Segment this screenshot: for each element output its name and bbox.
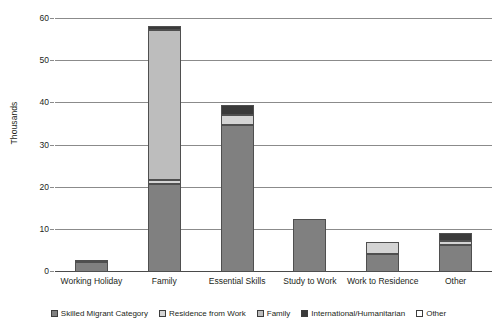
y-tick-label-0: 0 bbox=[44, 266, 49, 276]
y-tick-label-40: 40 bbox=[40, 97, 49, 107]
bar-segment[interactable] bbox=[148, 26, 181, 30]
x-axis-label-essential-skills: Essential Skills bbox=[201, 276, 274, 286]
legend-label: Residence from Work bbox=[169, 309, 246, 318]
x-axis-label-other: Other bbox=[419, 276, 492, 286]
legend-label: Skilled Migrant Category bbox=[61, 309, 148, 318]
y-tick-mark-50 bbox=[50, 60, 54, 61]
y-tick-mark-0 bbox=[50, 271, 54, 272]
y-tick-mark-10 bbox=[50, 229, 54, 230]
legend-item[interactable]: Skilled Migrant Category bbox=[51, 309, 148, 318]
bar-group[interactable] bbox=[293, 19, 326, 272]
x-axis-label-work-to-residence: Work to Residence bbox=[346, 276, 419, 286]
bar-segment[interactable] bbox=[439, 245, 472, 272]
bar-segment[interactable] bbox=[221, 105, 254, 115]
y-axis-title: Thousands bbox=[9, 78, 19, 168]
bar-segment[interactable] bbox=[148, 180, 181, 184]
y-tick-label-20: 20 bbox=[40, 182, 49, 192]
bar-segment[interactable] bbox=[366, 254, 399, 272]
plot-area: 0102030405060 Working HolidayFamilyEssen… bbox=[55, 19, 492, 272]
legend-item[interactable]: Residence from Work bbox=[159, 309, 246, 318]
bar-segment[interactable] bbox=[439, 241, 472, 245]
bar-group[interactable] bbox=[221, 19, 254, 272]
legend-swatch-icon bbox=[51, 310, 58, 317]
bar-group[interactable] bbox=[439, 19, 472, 272]
bar-segment[interactable] bbox=[221, 125, 254, 272]
bar-segment[interactable] bbox=[439, 233, 472, 241]
legend-item[interactable]: Other bbox=[416, 309, 446, 318]
bars-layer bbox=[55, 19, 492, 272]
bar-segment[interactable] bbox=[366, 242, 399, 255]
bar-group[interactable] bbox=[366, 19, 399, 272]
legend-swatch-icon bbox=[257, 310, 264, 317]
legend-item[interactable]: International/Humanitarian bbox=[301, 309, 405, 318]
legend-label: Family bbox=[267, 309, 291, 318]
chart-legend: Skilled Migrant CategoryResidence from W… bbox=[0, 309, 497, 318]
x-axis-label-working-holiday: Working Holiday bbox=[55, 276, 128, 286]
y-tick-mark-40 bbox=[50, 102, 54, 103]
legend-swatch-icon bbox=[301, 310, 308, 317]
bar-group[interactable] bbox=[75, 19, 108, 272]
y-tick-label-60: 60 bbox=[40, 13, 49, 23]
bar-segment[interactable] bbox=[75, 260, 108, 262]
bar-segment[interactable] bbox=[75, 262, 108, 272]
y-tick-label-50: 50 bbox=[40, 55, 49, 65]
x-axis-label-study-to-work: Study to Work bbox=[274, 276, 347, 286]
y-tick-mark-60 bbox=[50, 18, 54, 19]
legend-swatch-icon bbox=[416, 310, 423, 317]
legend-item[interactable]: Family bbox=[257, 309, 291, 318]
y-tick-mark-30 bbox=[50, 145, 54, 146]
legend-swatch-icon bbox=[159, 310, 166, 317]
bar-segment[interactable] bbox=[148, 30, 181, 180]
bar-segment[interactable] bbox=[293, 219, 326, 272]
y-tick-label-10: 10 bbox=[40, 224, 49, 234]
bar-group[interactable] bbox=[148, 19, 181, 272]
x-axis-label-family: Family bbox=[128, 276, 201, 286]
bar-segment[interactable] bbox=[148, 184, 181, 272]
bar-segment[interactable] bbox=[221, 115, 254, 125]
stacked-bar-chart: Thousands 0102030405060 Working HolidayF… bbox=[0, 0, 497, 333]
legend-label: International/Humanitarian bbox=[311, 309, 405, 318]
legend-label: Other bbox=[426, 309, 446, 318]
y-tick-label-30: 30 bbox=[40, 140, 49, 150]
y-tick-mark-20 bbox=[50, 187, 54, 188]
